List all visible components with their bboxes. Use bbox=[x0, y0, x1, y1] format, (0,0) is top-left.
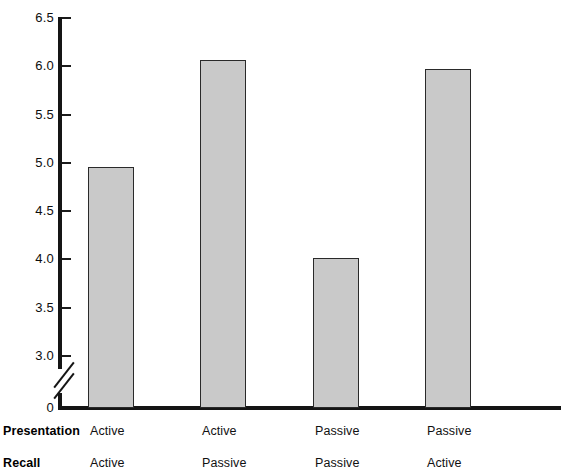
recall-level-3: Passive bbox=[315, 456, 410, 470]
plot-area: 6.56.05.55.04.54.03.53.00 bbox=[0, 0, 578, 410]
bar-4 bbox=[425, 69, 471, 408]
presentation-level-3: Passive bbox=[315, 424, 410, 438]
y-tick-label-4.0: 4.0 bbox=[8, 252, 54, 265]
y-axis-line bbox=[58, 17, 62, 410]
y-tick-label-6.0: 6.0 bbox=[8, 59, 54, 72]
y-tick-6.0 bbox=[62, 65, 71, 67]
y-tick-5.0 bbox=[62, 162, 71, 164]
y-tick-label-3.0: 3.0 bbox=[8, 349, 54, 362]
y-tick-label-6.5: 6.5 bbox=[8, 11, 54, 24]
y-tick-label-5.5: 5.5 bbox=[8, 108, 54, 121]
presentation-level-4: Passive bbox=[427, 424, 522, 438]
bar-3 bbox=[313, 258, 359, 408]
bar-2 bbox=[200, 60, 246, 408]
y-tick-4.5 bbox=[62, 210, 71, 212]
factor-row-title-recall: Recall bbox=[3, 456, 89, 470]
factor-row-title-presentation: Presentation bbox=[3, 424, 89, 438]
recall-level-1: Active bbox=[90, 456, 185, 470]
y-tick-3.0 bbox=[62, 355, 71, 357]
y-tick-label-5.0: 5.0 bbox=[8, 156, 54, 169]
presentation-level-1: Active bbox=[90, 424, 185, 438]
y-tick-label-4.5: 4.5 bbox=[8, 204, 54, 217]
presentation-level-2: Active bbox=[202, 424, 297, 438]
bar-chart: 6.56.05.55.04.54.03.53.00 Presentation A… bbox=[0, 0, 578, 476]
y-tick-6.5 bbox=[62, 17, 71, 19]
axis-break-icon bbox=[47, 366, 81, 396]
category-label-block: Presentation Active Active Passive Passi… bbox=[0, 410, 578, 476]
y-tick-5.5 bbox=[62, 114, 71, 116]
y-tick-4.0 bbox=[62, 258, 71, 260]
y-tick-3.5 bbox=[62, 307, 71, 309]
y-tick-label-3.5: 3.5 bbox=[8, 301, 54, 314]
factor-row-presentation: Presentation Active Active Passive Passi… bbox=[0, 424, 578, 444]
bar-1 bbox=[88, 167, 134, 408]
factor-row-recall: Recall Active Passive Passive Active bbox=[0, 456, 578, 476]
recall-level-2: Passive bbox=[202, 456, 297, 470]
recall-level-4: Active bbox=[427, 456, 522, 470]
